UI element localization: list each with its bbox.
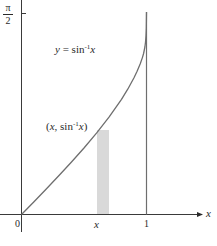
x-axis-arrowhead [197, 212, 203, 217]
curve-label-var: x [90, 43, 95, 55]
point-label-mid: , sin [55, 120, 73, 132]
inverse-sine-diagram [0, 0, 217, 246]
point-label-close: ) [84, 120, 88, 132]
y-tick-label: π 2 [2, 3, 14, 26]
curve-label-eq: = sin [60, 43, 85, 55]
curve-label: y = sin-1x [55, 44, 95, 55]
y-tick-numerator: π [5, 2, 10, 13]
origin-label: 0 [15, 219, 20, 229]
point-label: (x, sin-1x) [46, 121, 87, 132]
y-tick-denominator: 2 [6, 15, 11, 26]
x-tick-label-one: 1 [144, 219, 149, 229]
x-axis-label: x [206, 208, 211, 219]
x-tick-label-x: x [94, 219, 99, 230]
representative-strip [97, 130, 109, 214]
